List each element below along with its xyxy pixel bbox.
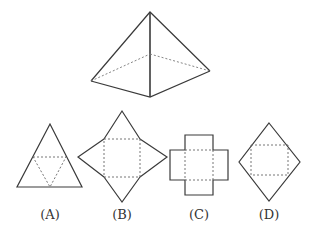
option-b-label: (B) <box>112 207 132 222</box>
figure-canvas <box>0 0 317 237</box>
pyramid-3d <box>91 12 210 97</box>
option-c-label: (C) <box>189 207 209 222</box>
pyramid-nets-figure: (A) (B) (C) (D) <box>0 0 317 237</box>
net-option-c <box>170 135 228 195</box>
net-option-d <box>239 123 300 201</box>
net-option-a <box>17 124 82 187</box>
net-option-b <box>78 111 167 202</box>
option-a-label: (A) <box>40 207 60 222</box>
option-d-label: (D) <box>259 207 280 222</box>
